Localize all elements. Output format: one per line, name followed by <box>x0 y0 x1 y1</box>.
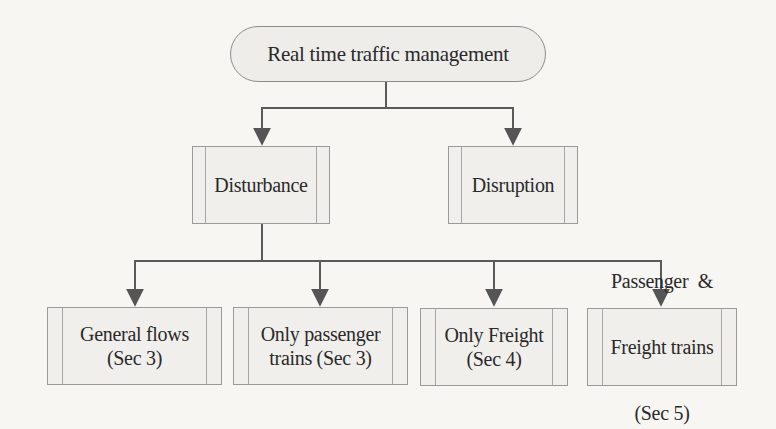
node-general-flows-label: General flows (Sec 3) <box>64 322 205 370</box>
root-node-label: Real time traffic management <box>251 42 524 66</box>
node-disturbance: Disturbance <box>192 146 330 224</box>
node-disruption: Disruption <box>448 146 578 224</box>
node-only-freight-label: Only Freight (Sec 4) <box>428 323 559 371</box>
node-only-passenger-trains-label: Only passenger trains (Sec 3) <box>245 322 397 370</box>
node-only-freight: Only Freight (Sec 4) <box>420 308 568 386</box>
node-disturbance-label: Disturbance <box>198 173 323 197</box>
node-disruption-label: Disruption <box>456 173 571 197</box>
node-only-passenger-trains: Only passenger trains (Sec 3) <box>233 307 408 385</box>
node-general-flows: General flows (Sec 3) <box>47 307 222 385</box>
node-passenger-and-freight-trains: Passenger & Freight trains (Sec 5) <box>587 308 737 386</box>
node-passenger-and-freight-trains-label: Passenger & Freight trains (Sec 5) <box>604 226 719 429</box>
root-node-real-time-traffic-management: Real time traffic management <box>230 26 546 82</box>
